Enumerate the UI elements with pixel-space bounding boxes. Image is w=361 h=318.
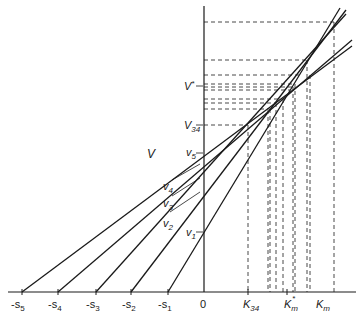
svg-text:-s3: -s3: [86, 298, 100, 313]
v3-pointer: [172, 178, 200, 196]
svg-text:v4: v4: [163, 180, 174, 195]
v4-pointer: [172, 164, 200, 180]
v-labels: V* V34 v5 v4 v3 v2 v1: [163, 79, 201, 241]
svg-text:K34: K34: [243, 298, 260, 313]
svg-text:V*: V*: [184, 79, 195, 92]
origin-label: 0: [200, 298, 206, 310]
axis-label-v: V: [147, 147, 156, 161]
svg-text:-s1: -s1: [158, 298, 172, 313]
svg-text:-s4: -s4: [48, 298, 62, 313]
vertical-projection-lines: [248, 22, 334, 292]
line-1: [168, 8, 340, 292]
svg-text:V34: V34: [184, 119, 201, 134]
direct-linear-plot: V 0 -s5 -s4 -s3 -s2 -s1 K34 Km* Km V* V3…: [0, 0, 361, 318]
svg-text:-s2: -s2: [122, 298, 136, 313]
svg-text:v1: v1: [186, 226, 196, 241]
v2-pointer: [170, 192, 200, 212]
svg-text:v5: v5: [186, 146, 197, 161]
line-4: [58, 40, 352, 292]
k-labels: K34 Km* Km: [243, 294, 330, 313]
svg-text:Km: Km: [316, 298, 330, 313]
svg-text:Km*: Km*: [284, 294, 298, 313]
svg-text:-s5: -s5: [11, 298, 25, 313]
svg-text:v2: v2: [163, 217, 174, 232]
svg-text:v3: v3: [163, 197, 174, 212]
s-labels: -s5 -s4 -s3 -s2 -s1: [11, 298, 172, 313]
y-axis-markers: [170, 86, 203, 232]
